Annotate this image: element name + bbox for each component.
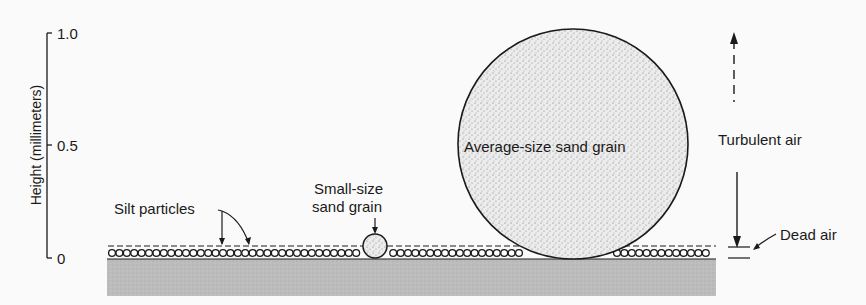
silt-particle [508,250,515,257]
silt-particle [205,250,212,257]
dead-air-label: Dead air [780,226,837,243]
y-axis [47,33,52,258]
silt-particle [331,250,338,257]
silt-particle [175,250,182,257]
silt-particle [486,250,493,257]
silt-particle [636,250,643,257]
silt-particle [479,250,486,257]
small-sand-grain [363,234,387,258]
silt-particle [168,250,175,257]
silt-particle [397,250,404,257]
silt-particle [271,250,278,257]
silt-particle [220,250,227,257]
silt-particle [464,250,471,257]
silt-particle [658,250,665,257]
silt-particle [249,250,256,257]
silt-particle [673,250,680,257]
silt-particle [434,250,441,257]
silt-particle [316,250,323,257]
silt-particle [680,250,687,257]
silt-particle [665,250,672,257]
silt-particle [643,250,650,257]
silt-particle [456,250,463,257]
silt-particle [695,250,702,257]
y-tick-0: 0 [57,250,65,267]
silt-particle [257,250,264,257]
silt-particle [131,250,138,257]
silt-particle [628,250,635,257]
arrowhead [219,238,225,245]
arrowhead-down [733,236,741,248]
silt-particle [123,250,130,257]
y-tick-0-5: 0.5 [57,137,78,154]
silt-particle [197,250,204,257]
silt-particles [109,250,710,257]
arrowhead-up [730,32,738,44]
turbulent-air-label: Turbulent air [718,131,802,148]
ground-surface [107,259,716,296]
silt-particle [419,250,426,257]
silt-particle [116,250,123,257]
small-grain-label-line1: Small-size [314,180,383,197]
silt-particle [338,250,345,257]
silt-particle [212,250,219,257]
y-tick-1: 1.0 [57,25,78,42]
silt-particle [279,250,286,257]
silt-particle [323,250,330,257]
arrowhead [245,237,251,245]
silt-particle [264,250,271,257]
silt-particle [183,250,190,257]
average-grain-label: Average-size sand grain [464,138,625,155]
silt-particle [109,250,116,257]
silt-particle [501,250,508,257]
silt-particles-label: Silt particles [114,200,195,217]
silt-particle [190,250,197,257]
silt-particle [138,250,145,257]
silt-particle [146,250,153,257]
silt-particle [621,250,628,257]
silt-particle [345,250,352,257]
arrowhead [372,227,378,234]
silt-particle [516,250,523,257]
silt-particle [227,250,234,257]
y-axis-label: Height (millimeters) [28,75,44,215]
silt-particle [390,250,397,257]
silt-particle [294,250,301,257]
arrowhead [753,243,760,250]
silt-particle [405,250,412,257]
silt-particle [412,250,419,257]
silt-particle [234,250,241,257]
silt-particle [160,250,167,257]
silt-particle [353,250,360,257]
silt-particle [153,250,160,257]
silt-particle [471,250,478,257]
silt-particle [688,250,695,257]
silt-particle [493,250,500,257]
silt-particle [651,250,658,257]
dead-air-layer-marks [728,247,750,258]
silt-particle [442,250,449,257]
silt-particle [242,250,249,257]
diagram-canvas [0,0,866,305]
silt-particle [702,250,709,257]
silt-particle [286,250,293,257]
silt-particle [308,250,315,257]
silt-particle [449,250,456,257]
silt-particle [427,250,434,257]
small-grain-label-line2: sand grain [312,198,382,215]
silt-particle [301,250,308,257]
